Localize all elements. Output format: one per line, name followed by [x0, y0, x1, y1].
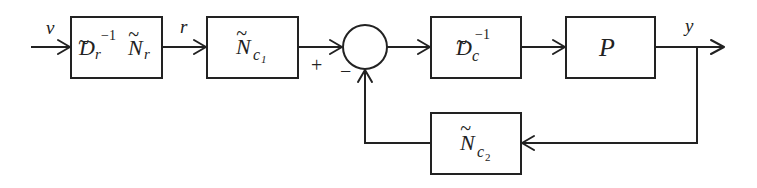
prefilter-block: ~ D r −1 ~ N r [71, 17, 162, 78]
plant-block: P [566, 17, 655, 78]
feedforward-1-subsubscript: 1 [261, 53, 267, 65]
reference-signal-arrow [162, 40, 206, 54]
controller-denominator-block: ~ D c −1 [431, 17, 521, 78]
feedback-n-base: N [459, 130, 476, 155]
plant-label: P [598, 33, 615, 62]
input-signal-arrow [31, 40, 70, 54]
controller-c-subscript: c [472, 47, 479, 64]
prefilter-n-base: N [127, 35, 144, 60]
prefilter-d-superscript: −1 [101, 28, 116, 43]
plus-sign: + [311, 54, 322, 76]
input-signal-label: v [46, 17, 55, 38]
controller-superscript: −1 [475, 27, 490, 42]
feedback-path-left [358, 70, 431, 143]
prefilter-d-base: D [78, 35, 95, 60]
sum-input-arrow [298, 40, 342, 54]
prefilter-d-subscript: r [95, 46, 101, 62]
feedforward-c-subscript: c [253, 46, 260, 63]
prefilter-n-subscript: r [144, 46, 150, 62]
summing-junction [343, 25, 387, 69]
block-diagram: v ~ D r −1 ~ N r r ~ N c 1 + − ~ [0, 0, 757, 188]
feedforward-n-base: N [235, 34, 252, 59]
error-signal-arrow [387, 40, 430, 54]
feedforward-block: ~ N c 1 [207, 17, 298, 78]
control-signal-arrow [521, 40, 565, 54]
output-signal-label: y [683, 15, 694, 36]
feedback-2-subsubscript: 2 [485, 151, 491, 163]
reference-signal-label: r [180, 16, 188, 37]
controller-d-base: D [455, 35, 472, 60]
feedback-c-subscript: c [477, 143, 484, 160]
feedback-block: ~ N c 2 [431, 113, 521, 174]
output-signal-arrow [655, 40, 724, 54]
